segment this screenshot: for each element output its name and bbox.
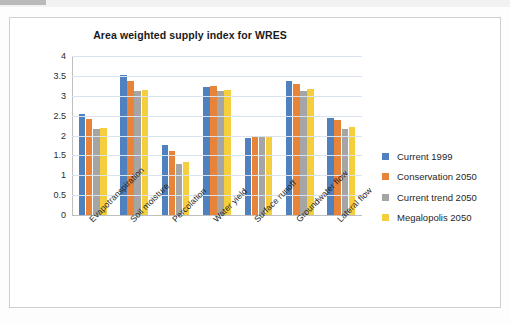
y-tick-label: 4: [38, 51, 66, 61]
gridline: [72, 76, 362, 77]
gridline: [72, 56, 362, 57]
chart-legend: Current 1999Conservation 2050Current tre…: [382, 146, 502, 228]
bar[interactable]: [217, 91, 224, 215]
legend-swatch-icon: [382, 194, 389, 201]
legend-item[interactable]: Megalopolis 2050: [382, 208, 502, 229]
bar[interactable]: [79, 114, 86, 215]
bar[interactable]: [134, 91, 141, 215]
legend-swatch-icon: [382, 214, 389, 221]
y-tick-label: 1.5: [38, 150, 66, 160]
legend-label: Conservation 2050: [397, 171, 477, 182]
bar[interactable]: [300, 91, 307, 215]
legend-swatch-icon: [382, 173, 389, 180]
legend-swatch-icon: [382, 153, 389, 160]
y-tick-label: 3: [38, 91, 66, 101]
chart-card: Area weighted supply index for WRES 43.5…: [9, 17, 501, 308]
legend-label: Megalopolis 2050: [397, 212, 471, 223]
legend-label: Current 1999: [397, 151, 452, 162]
chart-page: Area weighted supply index for WRES 43.5…: [0, 0, 510, 323]
gridline: [72, 175, 362, 176]
y-axis-tick-labels: 43.532.521.510.50: [36, 56, 66, 216]
y-tick-label: 2: [38, 131, 66, 141]
bar[interactable]: [86, 119, 93, 215]
legend-label: Current trend 2050: [397, 192, 477, 203]
bar[interactable]: [307, 89, 314, 215]
y-tick-label: 1: [38, 170, 66, 180]
y-tick-label: 2.5: [38, 111, 66, 121]
bar[interactable]: [169, 151, 176, 215]
bar[interactable]: [327, 118, 334, 215]
bar[interactable]: [245, 138, 252, 215]
scan-artifact-tab: [0, 0, 46, 5]
legend-item[interactable]: Current 1999: [382, 146, 502, 167]
bar[interactable]: [93, 129, 100, 215]
gridline: [72, 96, 362, 97]
gridline: [72, 136, 362, 137]
gridline: [72, 116, 362, 117]
scan-artifact-strip: [0, 0, 510, 7]
y-tick-label: 3.5: [38, 71, 66, 81]
y-tick-label: 0: [38, 210, 66, 220]
legend-item[interactable]: Current trend 2050: [382, 187, 502, 208]
chart-title: Area weighted supply index for WRES: [10, 29, 370, 41]
y-tick-label: 0.5: [38, 190, 66, 200]
legend-item[interactable]: Conservation 2050: [382, 167, 502, 188]
gridline: [72, 155, 362, 156]
